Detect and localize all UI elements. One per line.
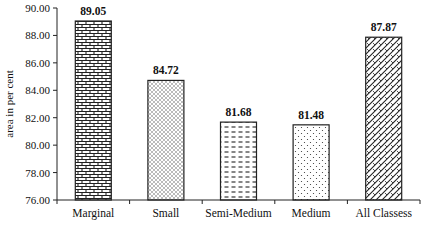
bars: 89.0584.7281.6881.4887.87: [75, 5, 401, 200]
bar-value-label: 81.48: [298, 109, 324, 121]
bar-small: 84.72: [148, 64, 184, 200]
bar-value-label: 84.72: [153, 64, 179, 76]
y-tick-label: 90.00: [25, 2, 50, 14]
bar-all-classess: 87.87: [366, 21, 402, 200]
bar-value-label: 89.05: [80, 5, 106, 17]
bar-rect: [293, 125, 329, 200]
bar-marginal: 89.05: [75, 5, 111, 200]
category-label: Medium: [292, 207, 331, 219]
bar-medium: 81.48: [293, 109, 329, 200]
category-label: Semi-Medium: [205, 207, 271, 219]
bar-rect: [366, 37, 402, 200]
y-tick-label: 82.00: [25, 112, 50, 124]
bar-rect: [148, 80, 184, 200]
category-label: All Classess: [355, 207, 412, 219]
bar-value-label: 81.68: [226, 106, 252, 118]
category-label: Marginal: [72, 207, 114, 220]
bar-rect: [75, 21, 111, 200]
y-tick-label: 80.00: [25, 139, 50, 151]
y-tick-label: 76.00: [25, 194, 50, 206]
y-axis-label: area in per cent: [3, 70, 15, 137]
y-tick-label: 88.00: [25, 29, 50, 41]
y-tick-label: 84.00: [25, 84, 50, 96]
y-tick-label: 78.00: [25, 167, 50, 179]
bar-semi-medium: 81.68: [221, 106, 257, 200]
x-axis: MarginalSmallSemi-MediumMediumAll Classe…: [57, 200, 420, 220]
y-axis: 76.0078.0080.0082.0084.0086.0088.0090.00: [25, 2, 57, 206]
bar-chart: area in per cent 76.0078.0080.0082.0084.…: [0, 0, 422, 225]
bar-rect: [221, 122, 257, 200]
y-tick-label: 86.00: [25, 57, 50, 69]
bar-value-label: 87.87: [371, 21, 397, 33]
category-label: Small: [152, 207, 179, 219]
